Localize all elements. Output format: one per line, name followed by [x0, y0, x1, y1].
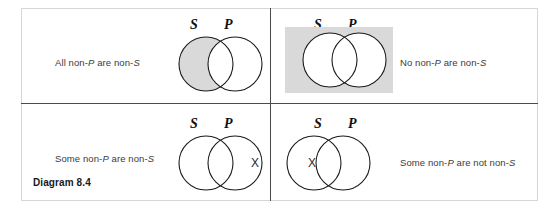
proposition-segment: are non- [94, 57, 133, 68]
proposition-text-top-left: All non-P are non-S [55, 58, 140, 68]
diagram-caption-label: Diagram 8.4 [33, 177, 91, 188]
proposition-segment: All non- [55, 57, 88, 68]
shaded-region-s-only [179, 37, 262, 91]
set-label-p-top-left: P [224, 18, 233, 32]
venn-diagram-top-left [178, 34, 268, 94]
proposition-text-bottom-right: Some non-P are not non-S [400, 158, 515, 168]
proposition-text-top-right: No non-P are non-S [400, 58, 486, 68]
proposition-segment: Some non- [55, 153, 102, 164]
venn-diagram-top-right [285, 27, 393, 93]
set-label-s-bottom-left: S [190, 117, 198, 131]
proposition-variable: S [509, 157, 515, 168]
set-label-s-top-left: S [190, 18, 198, 32]
set-label-p-bottom-left: P [224, 117, 233, 131]
proposition-segment: are non- [441, 57, 480, 68]
proposition-variable: S [133, 57, 139, 68]
proposition-segment: are not non- [454, 157, 509, 168]
circle-s [179, 136, 233, 190]
proposition-segment: are non- [109, 153, 148, 164]
diagram-figure: All non-P are non-S S P S P [0, 0, 559, 211]
x-marker-bottom-left: X [251, 157, 259, 169]
x-marker-bottom-right: X [308, 157, 316, 169]
proposition-variable: S [480, 57, 486, 68]
venn-diagram-bottom-right [285, 133, 393, 193]
proposition-segment: No non- [400, 57, 435, 68]
set-label-s-bottom-right: S [314, 117, 322, 131]
set-label-p-bottom-right: P [348, 117, 357, 131]
proposition-text-bottom-left: Some non-P are non-S [55, 154, 154, 164]
proposition-variable: S [148, 153, 154, 164]
proposition-segment: Some non- [400, 157, 447, 168]
